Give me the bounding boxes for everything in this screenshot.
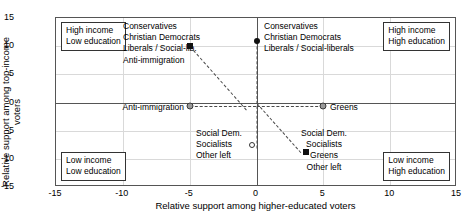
quadrant-box-line1: High income <box>66 25 121 36</box>
x-tick-label: -15 <box>48 188 61 198</box>
annotation-lower-left-parties: Social Dem. Socialists Other left <box>196 128 242 162</box>
quadrant-box-line2: High education <box>388 166 445 177</box>
annotation-anti-immigration: Anti-immigration <box>112 102 184 113</box>
connector-vertical-shift <box>256 41 257 148</box>
data-point-right-wing-now <box>254 38 260 44</box>
connector-anti-immigration-shift <box>190 106 257 107</box>
x-tick-label: 10 <box>384 188 394 198</box>
y-tick-label: 0 <box>9 97 14 107</box>
scatter-chart: Relative support among top-income voters… <box>0 0 473 217</box>
x-tick-label: 0 <box>253 188 258 198</box>
y-tick-label: -5 <box>6 125 14 135</box>
data-point-greens <box>320 102 327 109</box>
quadrant-box-line1: Low income <box>388 155 445 166</box>
annotation-line: Greens <box>330 102 358 113</box>
annotation-line: Anti-immigration <box>123 55 200 66</box>
annotation-line: Social Dem. <box>288 128 360 139</box>
x-axis-title: Relative support among higher-educated v… <box>55 200 456 211</box>
annotation-line: Other left <box>196 150 242 161</box>
quadrant-box-line2: Low education <box>66 36 121 47</box>
annotation-line: Conservatives <box>264 21 354 32</box>
quadrant-box-line1: Low income <box>66 155 121 166</box>
quadrant-box-bottom-left: Low income Low education <box>61 152 126 181</box>
annotation-line: Socialists <box>196 139 242 150</box>
data-point-anti-immigration <box>186 102 193 109</box>
annotation-line: Anti-immigration <box>112 102 184 113</box>
quadrant-box-line2: Low education <box>66 166 121 177</box>
gridline-horizontal <box>56 74 455 75</box>
quadrant-box-line2: High education <box>388 36 445 47</box>
annotation-line: Christian Democrats <box>264 32 354 43</box>
annotation-line: Other left <box>288 162 360 173</box>
annotation-line: Social Dem. <box>196 128 242 139</box>
y-tick-label: 10 <box>4 40 14 50</box>
x-tick-label: 15 <box>451 188 461 198</box>
x-tick-label: -10 <box>115 188 128 198</box>
annotation-line: Socialists <box>288 139 360 150</box>
data-point-left-wing-now <box>303 149 309 155</box>
quadrant-box-top-right: High income High education <box>383 22 450 51</box>
annotation-upper-right-parties: Conservatives Christian Democrats Libera… <box>264 21 354 55</box>
x-tick-label: -5 <box>185 188 193 198</box>
quadrant-box-bottom-right: Low income High education <box>383 152 450 181</box>
y-axis-title: Relative support among top-income voters <box>0 27 22 197</box>
annotation-line: Liberals / Social-liberals <box>264 43 354 54</box>
annotation-line: Christian Democrats <box>123 32 200 43</box>
y-tick-label: -15 <box>1 181 14 191</box>
annotation-line: Conservatives <box>123 21 200 32</box>
annotation-greens: Greens <box>330 102 358 113</box>
quadrant-box-top-left: High income Low education <box>61 22 126 51</box>
y-tick-label: 15 <box>4 12 14 22</box>
y-tick-label: 5 <box>9 68 14 78</box>
annotation-lower-right-parties: Social Dem. Socialists Greens Other left <box>288 128 360 173</box>
quadrant-box-line1: High income <box>388 25 445 36</box>
x-tick-label: 5 <box>320 188 325 198</box>
y-tick-label: -10 <box>1 153 14 163</box>
data-point-left-wing-past <box>249 142 255 148</box>
connector-greens-shift <box>257 106 324 107</box>
gridline-horizontal <box>56 131 455 132</box>
plot-area: High income Low education High income Hi… <box>55 17 456 186</box>
data-point-right-wing-past <box>187 43 193 49</box>
annotation-line: Greens <box>288 150 360 161</box>
